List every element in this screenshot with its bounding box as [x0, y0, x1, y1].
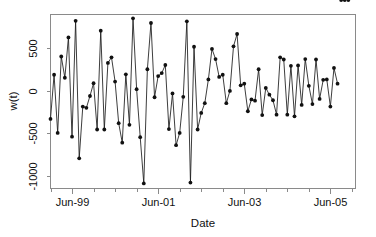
data-point	[56, 131, 60, 135]
timeseries-plot: 5000-500-1000 Jun-99Jun-01Jun-03Jun-05 w…	[0, 0, 376, 237]
data-point	[311, 102, 315, 106]
data-point	[217, 75, 221, 79]
data-point	[318, 97, 322, 101]
data-point	[81, 105, 85, 109]
data-point	[264, 86, 268, 90]
data-point	[228, 89, 232, 93]
axes-group	[51, 15, 356, 189]
data-point	[167, 127, 171, 131]
data-point	[120, 141, 124, 145]
data-point	[110, 55, 114, 59]
data-point	[95, 128, 99, 132]
series-points-wt	[49, 0, 351, 185]
data-point	[267, 93, 271, 97]
x-tick-label: Jun-99	[56, 196, 90, 208]
data-point	[285, 113, 289, 117]
data-point	[49, 117, 53, 121]
x-tick-label: Jun-01	[142, 196, 176, 208]
data-point	[275, 113, 279, 117]
data-point	[296, 64, 300, 68]
data-point	[278, 55, 282, 59]
y-axis-ticks	[47, 49, 51, 177]
data-point	[67, 36, 71, 40]
data-point	[314, 58, 318, 62]
data-point	[106, 61, 110, 65]
data-point	[63, 76, 67, 80]
data-point	[163, 63, 167, 67]
data-point	[235, 32, 239, 36]
data-point	[138, 135, 142, 139]
data-point	[232, 44, 236, 48]
data-point	[59, 55, 63, 59]
data-point	[250, 97, 254, 101]
data-point	[307, 84, 311, 88]
data-point	[321, 78, 325, 82]
x-tick-label: Jun-03	[228, 196, 262, 208]
data-point	[135, 87, 139, 91]
data-point	[203, 101, 207, 105]
data-point	[196, 128, 200, 132]
series-line-wt	[51, 18, 338, 183]
data-point	[142, 182, 146, 186]
data-point	[149, 21, 153, 25]
x-axis-tick-labels: Jun-99Jun-01Jun-03Jun-05	[56, 196, 348, 208]
data-point	[178, 131, 182, 135]
data-point	[289, 64, 293, 68]
data-point	[181, 95, 185, 99]
data-point	[174, 143, 178, 147]
data-point	[199, 111, 203, 115]
data-point	[84, 106, 88, 110]
data-point	[113, 80, 117, 84]
data-point	[128, 123, 132, 127]
y-tick-label: 500	[27, 39, 39, 57]
data-point	[145, 67, 149, 71]
chart-figure: 5000-500-1000 Jun-99Jun-01Jun-03Jun-05 w…	[0, 0, 376, 237]
y-tick-label: -500	[27, 122, 39, 144]
data-point	[257, 67, 261, 71]
data-point	[282, 58, 286, 62]
data-point	[171, 92, 175, 96]
data-point	[221, 73, 225, 77]
data-point	[339, 0, 343, 2]
data-point	[346, 0, 350, 2]
data-layer	[49, 0, 351, 185]
x-axis-title: Date	[191, 217, 215, 229]
data-point	[92, 81, 96, 85]
data-point	[74, 19, 78, 23]
data-point	[239, 83, 243, 87]
data-point	[332, 66, 336, 70]
data-point	[300, 103, 304, 107]
data-point	[336, 82, 340, 86]
data-point	[131, 16, 135, 20]
plot-frame	[51, 15, 356, 189]
data-point	[206, 78, 210, 82]
data-point	[325, 78, 329, 82]
y-axis-title: w(t)	[7, 91, 19, 111]
data-point	[242, 82, 246, 86]
data-point	[153, 95, 157, 99]
data-point	[70, 135, 74, 139]
data-point	[189, 181, 193, 185]
data-point	[160, 71, 164, 75]
data-point	[343, 0, 347, 2]
data-point	[124, 72, 128, 76]
data-point	[271, 98, 275, 102]
data-point	[328, 105, 332, 109]
data-point	[210, 47, 214, 51]
y-tick-label: -1000	[27, 162, 39, 190]
data-point	[214, 57, 218, 61]
data-point	[156, 74, 160, 78]
y-axis-tick-labels: 5000-500-1000	[27, 39, 39, 190]
data-point	[88, 94, 92, 98]
data-point	[185, 19, 189, 23]
data-point	[293, 114, 297, 118]
data-point	[260, 113, 264, 117]
data-point	[99, 29, 103, 33]
data-point	[117, 121, 121, 125]
x-tick-label: Jun-05	[314, 196, 348, 208]
data-point	[192, 45, 196, 49]
data-point	[102, 128, 106, 132]
data-point	[52, 73, 56, 77]
data-point	[224, 101, 228, 105]
data-point	[253, 99, 257, 103]
